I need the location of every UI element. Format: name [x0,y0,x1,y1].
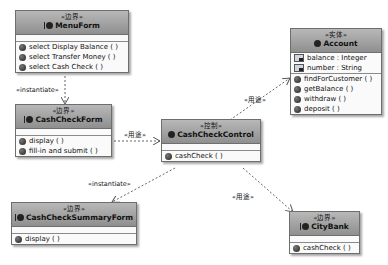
operation-icon [15,236,22,243]
attributes-section [290,236,359,243]
operations-section: select Display Balance ( ) select Transf… [16,42,128,72]
operation[interactable]: deposit ( ) [291,104,381,114]
operation[interactable]: select Display Balance ( ) [16,42,128,52]
attribute[interactable]: balance : Integer [291,53,381,63]
control-icon [168,131,175,138]
class-menu-form[interactable]: «边界» MenuForm select Display Balance ( )… [15,10,129,73]
edge-label-use-3: «用途» [232,191,254,201]
operation[interactable]: findForCustomer ( ) [291,74,381,84]
stereotype: «实体» [293,31,379,39]
class-cash-check-control[interactable]: «控制» CashCheckControl cashCheck ( ) [161,119,261,162]
attributes-section [12,227,136,234]
class-header: «边界» CashCheckSummaryForm [12,203,136,227]
class-name: CityBank [311,222,349,231]
operation[interactable]: fill-in and submit ( ) [16,146,111,156]
stereotype: «边界» [14,205,134,213]
class-icon [17,214,24,221]
class-cash-check-form[interactable]: «边界» CashCheckForm display ( ) fill-in a… [15,104,112,157]
class-icon [302,223,309,230]
boundary-icon [15,214,16,221]
operation[interactable]: withdraw ( ) [291,94,381,104]
operation[interactable]: display ( ) [12,234,136,244]
operation-icon [19,44,26,51]
operation[interactable]: cashCheck ( ) [290,243,359,253]
operation-icon [19,54,26,61]
class-icon [26,116,33,123]
operation-icon [293,245,300,252]
operation-icon [165,153,172,160]
attributes-section: balance : Integer number : String [291,53,381,74]
attribute[interactable]: number : String [291,63,381,73]
attributes-section [16,35,128,42]
stereotype: «边界» [18,13,126,21]
edge-label-instantiate-2: «instantiate» [88,180,131,188]
operation-icon [294,106,301,113]
operation[interactable]: select Cash Check ( ) [16,62,128,72]
edge-label-use-2: «用途» [244,94,266,104]
stereotype: «边界» [18,107,109,115]
attribute-icon [294,54,304,62]
class-header: «边界» CityBank [290,212,359,236]
class-header: «实体» Account [291,29,381,53]
operation[interactable]: cashCheck ( ) [162,151,260,161]
class-cash-check-summary-form[interactable]: «边界» CashCheckSummaryForm display ( ) [11,202,137,245]
class-icon [46,22,53,29]
attributes-section [16,129,111,136]
operation[interactable]: select Transfer Money ( ) [16,52,128,62]
entity-icon [314,40,321,47]
operation-icon [294,86,301,93]
class-header: «边界» MenuForm [16,11,128,35]
operation-icon [19,138,26,145]
operation-icon [294,76,301,83]
operation[interactable]: getBalance ( ) [291,84,381,94]
boundary-icon [44,22,45,29]
operations-section: display ( ) fill-in and submit ( ) [16,136,111,156]
boundary-icon [300,223,301,230]
operation[interactable]: display ( ) [16,136,111,146]
class-name: MenuForm [55,21,100,30]
operation-icon [19,148,26,155]
class-name: CashCheckSummaryForm [26,213,133,222]
class-name: CashCheckForm [35,115,102,124]
operations-section: findForCustomer ( ) getBalance ( ) withd… [291,74,381,114]
class-name: Account [323,39,357,48]
edge-label-instantiate-1: «instantiate» [16,86,59,94]
stereotype: «控制» [164,122,258,130]
operation-icon [19,64,26,71]
operation-icon [294,96,301,103]
class-name: CashCheckControl [177,130,254,139]
class-account[interactable]: «实体» Account balance : Integer number : … [290,28,382,115]
operations-section: cashCheck ( ) [162,151,260,161]
class-header: «边界» CashCheckForm [16,105,111,129]
class-header: «控制» CashCheckControl [162,120,260,144]
boundary-icon [24,116,25,123]
class-city-bank[interactable]: «边界» CityBank cashCheck ( ) [289,211,360,254]
edge-label-use-1: «用途» [124,129,146,139]
attributes-section [162,144,260,151]
operations-section: cashCheck ( ) [290,243,359,253]
stereotype: «边界» [292,214,357,222]
operations-section: display ( ) [12,234,136,244]
attribute-icon [294,64,304,72]
